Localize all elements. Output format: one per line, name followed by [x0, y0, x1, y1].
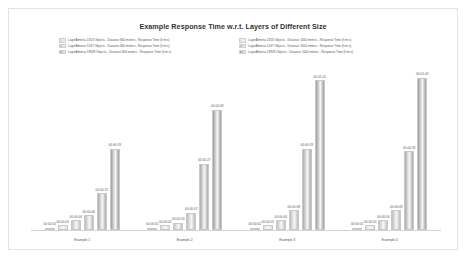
legend-column-left: LayerAlmeria 1353 Objects - Distance 800…: [59, 38, 229, 60]
bar-group: 00:00:0100:00:0200:00:0400:00:0800:00:32…: [339, 63, 442, 230]
legend-item-label: LayerAlmeria 5247 Objects - Distance 100…: [248, 44, 351, 48]
legend-item[interactable]: LayerAlmeria 19929 Objects - Distance 80…: [59, 50, 229, 55]
x-axis-tick-label: Example 1: [47, 238, 117, 242]
bar-slot: 00:00:27: [199, 63, 209, 230]
bar-slot: 00:00:49: [212, 63, 222, 230]
bar-slot: 00:00:02: [263, 63, 273, 230]
bar-group: 00:00:0100:00:0200:00:0400:00:0800:00:33…: [236, 63, 339, 230]
bar[interactable]: [378, 220, 388, 230]
bar[interactable]: [71, 220, 81, 230]
plot-area: 00:00:0100:00:0200:00:0400:00:0600:00:15…: [31, 63, 441, 230]
legend-swatch-icon: [59, 38, 66, 43]
bar-slot: 00:00:02: [365, 63, 375, 230]
bar-group: 00:00:0100:00:0200:00:0400:00:0600:00:15…: [31, 63, 134, 230]
bar-group: 00:00:0100:00:0200:00:0300:00:0700:00:27…: [134, 63, 237, 230]
bar[interactable]: [391, 210, 401, 230]
legend-item[interactable]: LayerAlmeria 5247 Objects - Distance 800…: [59, 44, 229, 49]
bar-slot: 00:00:03: [173, 63, 183, 230]
legend-swatch-icon: [59, 44, 66, 49]
legend-swatch-icon: [59, 50, 66, 55]
legend-item-label: LayerAlmeria 19929 Objects - Distance 10…: [248, 50, 353, 54]
bar-slot: 00:01:02: [417, 63, 427, 230]
bar[interactable]: [404, 151, 414, 230]
bar-slot: 00:00:33: [110, 63, 120, 230]
bar-value-label: 00:00:49: [200, 104, 234, 108]
bar-slot: 00:00:33: [302, 63, 312, 230]
bar-value-label: 00:00:33: [98, 143, 132, 147]
bar[interactable]: [199, 164, 209, 230]
bar-slot: 00:01:01: [315, 63, 325, 230]
bar[interactable]: [97, 193, 107, 230]
legend-item[interactable]: LayerAlmeria 5247 Objects - Distance 100…: [239, 44, 409, 49]
x-axis-tick-label: Example 4: [355, 238, 425, 242]
legend-item[interactable]: LayerAlmeria 1353 Objects - Distance 100…: [239, 38, 409, 43]
bar[interactable]: [302, 149, 312, 230]
legend-item-label: LayerAlmeria 1353 Objects - Distance 100…: [248, 38, 351, 42]
legend-column-right: LayerAlmeria 1353 Objects - Distance 100…: [239, 38, 409, 60]
bar[interactable]: [212, 110, 222, 230]
bar-slot: 00:00:06: [84, 63, 94, 230]
bar-slot: 00:00:02: [160, 63, 170, 230]
legend-swatch-icon: [239, 50, 246, 55]
x-axis-tick-label: Example 3: [252, 238, 322, 242]
bar[interactable]: [84, 215, 94, 230]
chart-title: Example Response Time w.r.t. Layers of D…: [9, 22, 457, 31]
legend-swatch-icon: [239, 38, 246, 43]
legend-item-label: LayerAlmeria 19929 Objects - Distance 80…: [68, 50, 171, 54]
bar-slot: 00:00:07: [186, 63, 196, 230]
bar[interactable]: [417, 78, 427, 230]
bar-slot: 00:00:01: [147, 63, 157, 230]
bar[interactable]: [315, 80, 325, 230]
bar-slot: 00:00:01: [250, 63, 260, 230]
bar[interactable]: [289, 210, 299, 230]
bar[interactable]: [276, 220, 286, 230]
chart-frame: Example Response Time w.r.t. Layers of D…: [8, 8, 458, 250]
chart-legend: LayerAlmeria 1353 Objects - Distance 800…: [59, 38, 409, 60]
bar-slot: 00:00:01: [352, 63, 362, 230]
bar-value-label: 00:01:01: [303, 75, 337, 79]
bar-slot: 00:00:01: [45, 63, 55, 230]
x-axis-labels: Example 1Example 2Example 3Example 4: [31, 238, 441, 248]
bar-slot: 00:00:32: [404, 63, 414, 230]
bar[interactable]: [173, 223, 183, 230]
legend-item[interactable]: LayerAlmeria 1353 Objects - Distance 800…: [59, 38, 229, 43]
bar[interactable]: [110, 149, 120, 230]
x-axis-tick-label: Example 2: [150, 238, 220, 242]
bar-value-label: 00:01:02: [405, 72, 439, 76]
x-axis-line: [31, 230, 441, 231]
bar-slot: 00:00:04: [71, 63, 81, 230]
bar[interactable]: [186, 213, 196, 230]
legend-item-label: LayerAlmeria 5247 Objects - Distance 800…: [68, 44, 170, 48]
legend-swatch-icon: [239, 44, 246, 49]
legend-item-label: LayerAlmeria 1353 Objects - Distance 800…: [68, 38, 170, 42]
bar-slot: 00:00:02: [58, 63, 68, 230]
legend-item[interactable]: LayerAlmeria 19929 Objects - Distance 10…: [239, 50, 409, 55]
